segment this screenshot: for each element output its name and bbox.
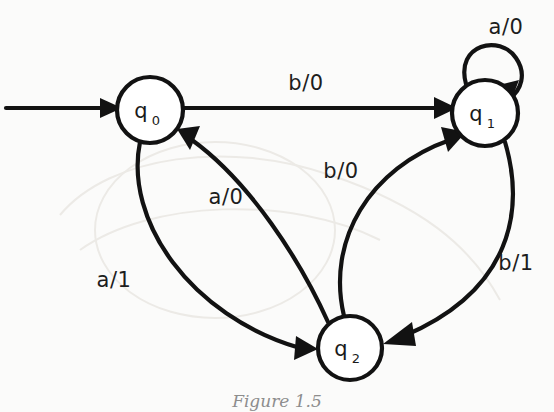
edge-label-q1-q2: b/1	[498, 251, 533, 275]
node-q0[interactable]: q 0	[117, 77, 183, 143]
node-q1[interactable]: q 1	[452, 80, 518, 146]
node-q1-label: q	[469, 102, 482, 126]
edge-q2-to-q1	[340, 127, 466, 316]
edge-q0-to-q1	[183, 97, 457, 119]
edge-label-q2-q1: b/0	[323, 159, 358, 183]
node-q2-subscript: 2	[352, 351, 360, 366]
state-diagram: q 0 q 1 q 2 b/0 a/0 b/1 b/0 a/0 a/1	[0, 0, 554, 412]
edge-label-q0-q1: b/0	[288, 71, 323, 95]
edge-start-arrow	[6, 98, 122, 118]
node-q1-subscript: 1	[487, 116, 495, 131]
node-q0-subscript: 0	[152, 113, 160, 128]
figure-canvas: q 0 q 1 q 2 b/0 a/0 b/1 b/0 a/0 a/1 Figu…	[0, 0, 554, 412]
edge-label-q2-q0: a/0	[209, 185, 244, 209]
edge-label-q0-q2: a/1	[97, 268, 132, 292]
edge-label-q1-self: a/0	[489, 15, 524, 39]
figure-caption: Figure 1.5	[0, 391, 554, 411]
node-q2-label: q	[334, 337, 347, 361]
edge-q1-to-q2	[383, 142, 513, 346]
node-q2[interactable]: q 2	[318, 316, 382, 380]
node-q0-label: q	[134, 99, 147, 123]
